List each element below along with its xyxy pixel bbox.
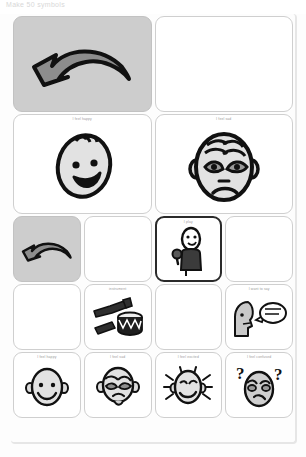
excited-face-icon	[156, 353, 222, 417]
sad-face-icon	[156, 115, 293, 213]
symbol-cell-happy[interactable]: I feel happy	[13, 114, 152, 214]
symbol-cell-play[interactable]: I play	[155, 216, 223, 282]
happy-face-icon	[14, 115, 151, 213]
cell-caption: I feel sad	[85, 355, 151, 360]
empty-cell[interactable]	[13, 284, 81, 350]
svg-text:?: ?	[274, 365, 283, 384]
symbol-cell-sad[interactable]: I feel sad	[155, 114, 294, 214]
symbol-cell-instrument[interactable]: instrument	[84, 284, 152, 350]
action-row: I play	[13, 216, 293, 282]
objects-row: instrument I want to say	[13, 284, 293, 350]
app-header: Make 50 symbols	[0, 0, 306, 14]
symbol-cell-confused[interactable]: I feel confused ? ?	[225, 352, 293, 418]
navigation-row	[13, 16, 293, 112]
cell-caption: instrument	[85, 287, 151, 292]
emotions-row: I feel happy I feel sad	[13, 352, 293, 418]
sad-face-icon	[85, 353, 151, 417]
confused-face-icon: ? ?	[226, 353, 292, 417]
cell-caption: I want to say	[226, 287, 292, 292]
aac-board-app: Make 50 symbols I feel happy	[0, 0, 306, 457]
symbol-cell-sad-small[interactable]: I feel sad	[84, 352, 152, 418]
speech-head-icon	[226, 285, 292, 349]
back-arrow-icon	[14, 17, 151, 111]
back-button-large[interactable]	[13, 16, 152, 112]
feelings-row: I feel happy I feel sad	[13, 114, 293, 214]
cell-caption: I feel confused	[226, 355, 292, 360]
svg-text:?: ?	[236, 364, 245, 383]
cell-caption: I feel sad	[156, 117, 293, 122]
instruments-icon	[85, 285, 151, 349]
symbol-cell-excited[interactable]: I feel excited	[155, 352, 223, 418]
symbol-cell-say[interactable]: I want to say	[225, 284, 293, 350]
empty-cell[interactable]	[84, 216, 152, 282]
empty-cell[interactable]	[225, 216, 293, 282]
symbol-cell-happy-small[interactable]: I feel happy	[13, 352, 81, 418]
cell-caption: I feel happy	[14, 355, 80, 360]
header-title: Make 50 symbols	[6, 1, 65, 8]
cell-caption: I play	[157, 220, 221, 225]
cell-caption: I feel happy	[14, 117, 151, 122]
person-shaker-icon	[157, 218, 221, 280]
back-arrow-icon	[14, 217, 80, 281]
back-button-small[interactable]	[13, 216, 81, 282]
empty-cell[interactable]	[155, 16, 294, 112]
symbol-board: I feel happy I feel sad	[13, 16, 293, 440]
cell-caption: I feel excited	[156, 355, 222, 360]
happy-face-icon	[14, 353, 80, 417]
empty-cell[interactable]	[155, 284, 223, 350]
